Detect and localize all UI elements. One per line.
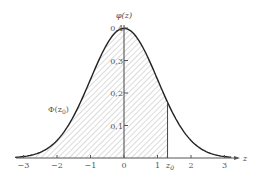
x-axis-label: z — [242, 154, 248, 163]
hatched-area — [17, 28, 168, 158]
x-tick-label: 0 — [121, 161, 126, 170]
x-tick-label: 1 — [155, 161, 160, 170]
x-tick-label: −3 — [18, 161, 30, 170]
x-axis-arrow-icon — [234, 156, 240, 160]
y-tick-label: 0,3 — [110, 57, 123, 66]
x-tick-label: 2 — [188, 161, 193, 170]
z0-label: z0 — [165, 161, 174, 171]
y-tick-label: 0,2 — [110, 89, 123, 98]
x-tick-label: −2 — [51, 161, 63, 170]
y-axis-label: φ(z) — [116, 11, 132, 20]
x-tick-label: 3 — [222, 161, 227, 170]
y-tick-label: 0,4 — [110, 24, 123, 33]
shaded-area-phi-z0 — [17, 28, 168, 158]
phi-z0-label: Φ(z0) — [48, 105, 69, 115]
y-tick-label: 0,1 — [110, 122, 123, 131]
normal-distribution-chart: −3−2−10123 0,10,20,30,4 z φ(z) z0 Φ(z0) — [0, 0, 259, 181]
x-tick-label: −1 — [85, 161, 97, 170]
